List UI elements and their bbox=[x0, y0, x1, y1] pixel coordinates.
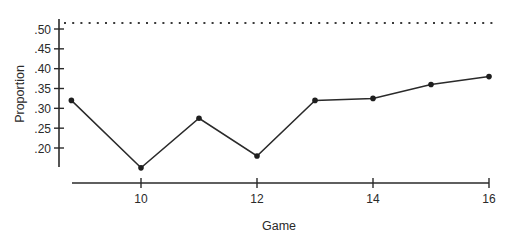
data-point bbox=[486, 74, 492, 80]
x-tick-label: 14 bbox=[366, 192, 380, 206]
y-axis-title: Proportion bbox=[13, 65, 27, 123]
x-axis: 10121416 bbox=[72, 178, 496, 206]
y-axis: .20.25.30.35.40.45.50 bbox=[34, 19, 64, 167]
y-tick-label: .20 bbox=[34, 142, 51, 156]
y-tick-label: .50 bbox=[34, 23, 51, 37]
chart-canvas: .20.25.30.35.40.45.50 10121416 Proportio… bbox=[0, 0, 509, 240]
data-point bbox=[312, 98, 318, 104]
x-axis-title: Game bbox=[262, 219, 296, 233]
x-tick-label: 10 bbox=[134, 192, 148, 206]
y-tick-label: .35 bbox=[34, 82, 51, 96]
y-tick-label: .45 bbox=[34, 42, 51, 56]
y-tick-label: .30 bbox=[34, 102, 51, 116]
data-point bbox=[428, 82, 434, 88]
series-line bbox=[71, 77, 489, 168]
line-chart: .20.25.30.35.40.45.50 10121416 Proportio… bbox=[0, 0, 509, 240]
data-point bbox=[138, 165, 144, 171]
data-point bbox=[69, 98, 75, 104]
data-point bbox=[254, 153, 260, 159]
data-point bbox=[196, 115, 202, 121]
data-point bbox=[370, 96, 376, 102]
y-tick-label: .25 bbox=[34, 122, 51, 136]
y-tick-label: .40 bbox=[34, 62, 51, 76]
x-tick-label: 16 bbox=[482, 192, 496, 206]
data-series bbox=[69, 74, 492, 171]
x-tick-label: 12 bbox=[250, 192, 264, 206]
